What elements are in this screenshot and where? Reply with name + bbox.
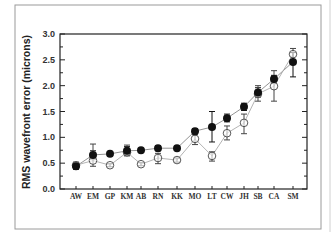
y-tick-label: 3.0 (42, 29, 55, 39)
open-circle-marker (106, 161, 114, 169)
x-tick-label: AW (70, 192, 83, 201)
y-tick-label: 1.0 (42, 132, 55, 142)
x-tick-label: SM (287, 192, 298, 201)
open-circle-marker (240, 119, 248, 127)
filled-circle-marker (223, 114, 231, 122)
x-tick-label: LT (207, 192, 216, 201)
y-axis-label: RMS wavefront error (microns) (20, 35, 32, 189)
open-circle-marker (270, 82, 278, 90)
x-tick-label: AB (136, 192, 146, 201)
filled-circle-marker (137, 146, 145, 154)
filled-circle-marker (72, 162, 80, 170)
x-tick-label: EM (87, 192, 99, 201)
y-tick-label: 2.0 (42, 81, 55, 91)
x-tick-label: KM (121, 192, 134, 201)
chart: 0.00.51.01.52.02.53.0AWEMGPKMABRNKKMOLTC… (0, 0, 334, 232)
open-circle-marker (223, 129, 231, 137)
x-tick-label: RN (153, 192, 164, 201)
open-circle-marker (173, 156, 181, 164)
filled-circle-marker (154, 144, 162, 152)
open-circle-marker (208, 152, 216, 160)
x-tick-label: CW (221, 192, 234, 201)
filled-circle-marker (123, 147, 131, 155)
filled-circle-marker (173, 144, 181, 152)
open-circle-marker (137, 160, 145, 168)
x-tick-label: JH (239, 192, 249, 201)
filled-circle-marker (191, 127, 199, 135)
filled-circle-marker (254, 88, 262, 96)
y-tick-label: 0.5 (42, 158, 55, 168)
open-circle-marker (154, 154, 162, 162)
filled-circle-marker (106, 150, 114, 158)
open-circle-marker (289, 50, 297, 58)
x-tick-label: SB (253, 192, 262, 201)
x-tick-label: CA (269, 192, 280, 201)
y-tick-label: 2.5 (42, 55, 55, 65)
filled-circle-marker (289, 58, 297, 66)
x-tick-label: KK (171, 192, 183, 201)
open-circle-marker (191, 135, 199, 143)
filled-circle-marker (89, 151, 97, 159)
filled-circle-marker (208, 123, 216, 131)
x-tick-label: MO (189, 192, 202, 201)
filled-circle-marker (270, 75, 278, 83)
filled-circle-marker (240, 103, 248, 111)
y-tick-label: 1.5 (42, 107, 55, 117)
x-tick-label: GP (105, 192, 116, 201)
y-tick-label: 0.0 (42, 184, 55, 194)
